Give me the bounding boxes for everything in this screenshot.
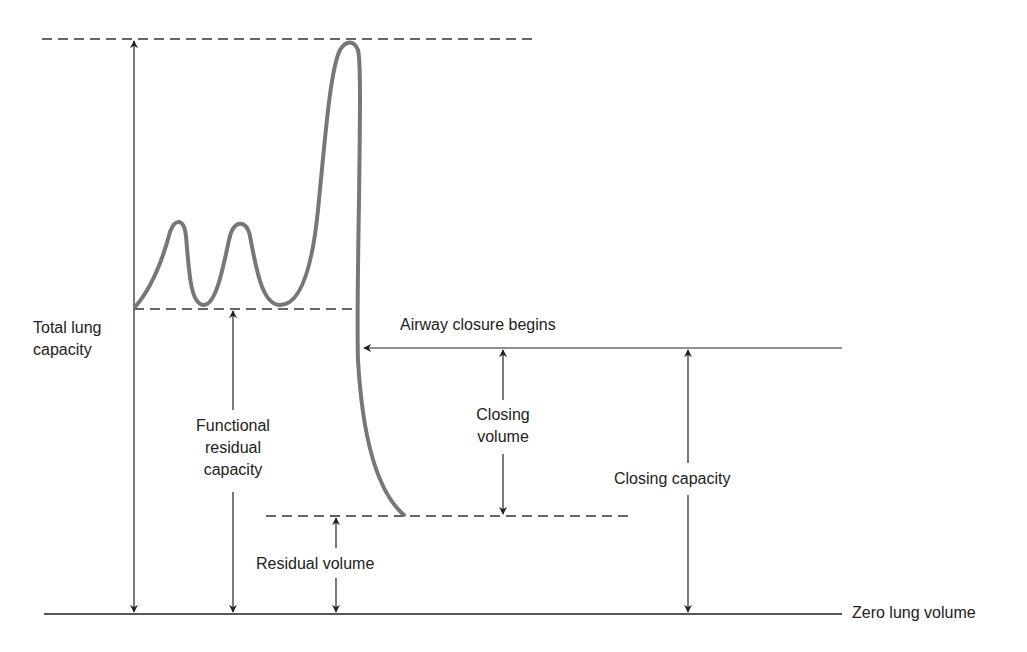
- frc-label-line-2: residual: [180, 437, 286, 459]
- tlc-label-line-1: Total lung: [33, 317, 102, 339]
- total-lung-capacity-label: Total lung capacity: [33, 317, 102, 361]
- frc-label: Functional residual capacity: [180, 415, 286, 481]
- closing-volume-label: Closing volume: [463, 404, 543, 448]
- closing-volume-line-2: volume: [463, 426, 543, 448]
- frc-label-line-3: capacity: [180, 459, 286, 481]
- closing-capacity-label: Closing capacity: [614, 468, 731, 490]
- airway-closure-label: Airway closure begins: [400, 314, 556, 336]
- frc-label-line-1: Functional: [180, 415, 286, 437]
- tlc-label-line-2: capacity: [33, 339, 102, 361]
- closing-volume-line-1: Closing: [463, 404, 543, 426]
- zero-lung-volume-label: Zero lung volume: [852, 602, 976, 624]
- residual-volume-label: Residual volume: [256, 553, 374, 575]
